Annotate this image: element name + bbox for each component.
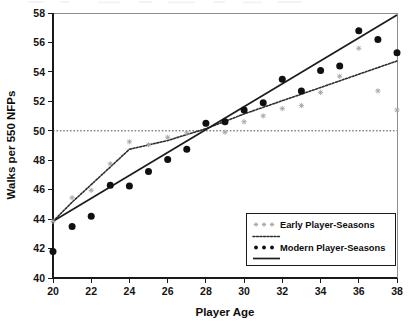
data-point-early [299,103,304,108]
scatter-plot: 58 56 54 52 50 48 46 44 42 [0,0,413,326]
data-point-early [280,106,285,111]
data-point-modern [126,183,133,190]
data-point-modern [164,156,171,163]
y-tick-label: 40 [33,272,45,284]
data-point-early [318,90,323,95]
data-point-early [261,113,266,118]
y-tick-label: 48 [33,154,45,166]
data-point-early [89,188,94,193]
y-axis: 58 56 54 52 50 48 46 44 42 [33,7,53,284]
data-point-modern [260,99,267,106]
data-point-modern [88,213,95,220]
legend-star-icon [262,222,266,226]
early-fit-line [53,61,397,221]
early-series-points [50,46,399,224]
data-point-modern [222,118,229,125]
legend-star-icon [254,222,258,226]
data-point-modern [145,168,152,175]
x-tick-label: 20 [47,285,59,297]
data-point-modern [374,36,381,43]
x-tick-label: 36 [353,285,365,297]
y-tick-label: 52 [33,95,45,107]
data-point-early [50,219,55,224]
legend-label-modern[interactable]: Modern Player-Seasons [280,243,385,253]
x-tick-label: 22 [85,285,97,297]
legend-label-early[interactable]: Early Player-Seasons [280,220,375,230]
x-tick-label: 38 [391,285,403,297]
data-point-modern [69,223,76,230]
legend-dot-icon [262,246,266,250]
data-point-early [165,135,170,140]
scan-artifact-top [28,1,302,3]
data-point-early [146,142,151,147]
chart-legend[interactable]: Early Player-Seasons Modern Player-Seaso… [246,213,395,265]
data-point-early [356,46,361,51]
x-tick-label: 30 [238,285,250,297]
legend-star-icon [270,222,274,226]
data-point-early [394,108,399,113]
modern-fit-line [53,15,397,221]
data-point-modern [336,63,343,70]
legend-dot-icon [270,246,274,250]
data-point-early [222,130,227,135]
y-tick-label: 42 [33,242,45,254]
data-point-early [375,88,380,93]
y-tick-label: 46 [33,183,45,195]
data-point-early [127,139,132,144]
data-point-early [337,74,342,79]
x-tick-label: 24 [124,285,136,297]
data-point-modern [394,49,401,56]
y-tick-label: 58 [33,7,45,19]
x-tick-label: 32 [276,285,288,297]
chart-figure: 58 56 54 52 50 48 46 44 42 [0,0,413,326]
y-tick-label: 50 [33,125,45,137]
y-tick-label: 44 [33,213,45,225]
data-point-modern [355,27,362,34]
data-point-modern [298,88,305,95]
data-point-modern [107,182,114,189]
x-tick-label: 28 [200,285,212,297]
x-tick-label: 34 [315,285,327,297]
data-point-modern [50,248,57,255]
y-tick-label: 56 [33,36,45,48]
data-point-modern [241,107,248,114]
y-tick-label: 54 [33,66,45,78]
data-point-early [70,195,75,200]
data-point-early [184,130,189,135]
data-point-modern [183,146,190,153]
x-axis-title: Player Age [195,306,254,318]
x-axis: 20 22 24 26 28 30 32 34 36 [47,278,403,297]
data-point-modern [317,67,324,74]
data-point-modern [202,120,209,127]
x-tick-label: 26 [162,285,174,297]
y-axis-title: Walks per 550 NFPs [5,91,17,200]
data-point-modern [279,76,286,83]
data-point-early [242,119,247,124]
legend-dot-icon [254,246,258,250]
data-point-early [108,161,113,166]
